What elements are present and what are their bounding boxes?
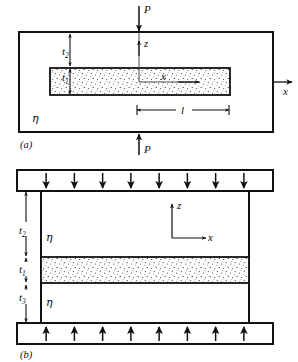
layered-inclusion-diagram: P P z x x t2 t1 l [0,0,298,362]
panel-b-lower-matrix-label: η [46,296,53,309]
panel-b-upper-matrix-label: η [46,231,53,244]
panel-b-caption: (b) [20,349,33,361]
panel-a-z-axis-label: z [143,37,149,49]
panel-b-bottom-platen [17,323,273,344]
panel-a-bottom-load-label: P [143,143,151,155]
panel-b-top-load-arrow-group [46,173,244,188]
panel-a-t2-label: t2 [62,45,69,60]
panel-a-inclusion-layer [50,68,230,95]
panel-b-bottom-load-arrow-group [46,327,244,341]
panel-a-matrix-viscosity-label: η [32,112,39,125]
panel-b-z-axis-label: z [176,199,182,211]
panel-a-top-load-label: P [143,3,151,15]
figure-container: P P z x x t2 t1 l [0,0,298,362]
panel-b-x-axis-label: x [207,231,213,243]
panel-a: P P z x x t2 t1 l [19,3,292,155]
panel-b-inclusion-layer [41,257,249,283]
panel-b: η η z x t2 t1 t3 (b) [17,170,273,361]
panel-a-length-label: l [181,104,184,116]
panel-a-inner-x-axis-label: x [160,70,166,82]
panel-a-outer-x-axis-label: x [282,85,288,97]
panel-a-caption: (a) [20,139,33,151]
panel-b-top-platen [17,170,273,191]
